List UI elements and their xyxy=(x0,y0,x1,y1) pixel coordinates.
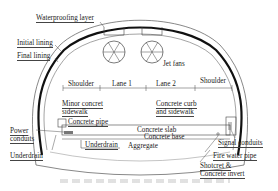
label-curb-2: and sidewalk xyxy=(156,108,194,117)
label-power-2: conduits xyxy=(10,135,34,144)
final-lining xyxy=(38,28,241,156)
label-concrete-base: Concrete base xyxy=(144,133,185,141)
power-conduits xyxy=(64,131,73,134)
label-jet-fans: Jet fans xyxy=(163,60,185,68)
label-underdrain-mid: Underdrain xyxy=(85,141,118,150)
tunnel-diagram xyxy=(0,0,278,191)
label-minor-sidewalk-2: sidewalk xyxy=(62,108,88,117)
label-shoulder-right: Shoulder xyxy=(200,77,226,85)
invert-inner xyxy=(50,152,230,161)
label-shotcrete-2: Concrete invert xyxy=(200,170,245,179)
label-lane-1: Lane 1 xyxy=(112,80,132,88)
label-initial-lining: Initial lining xyxy=(17,39,53,48)
label-lane-2: Lane 2 xyxy=(156,80,176,88)
label-underdrain-left: Underdrain xyxy=(10,152,43,161)
label-signal-conduits: Signal conduits xyxy=(218,139,263,148)
label-shoulder-left: Shoulder xyxy=(68,80,94,88)
label-concrete-pipe: Concrete pipe xyxy=(68,118,108,127)
jet-fan-left xyxy=(103,27,125,63)
label-fire-water-pipe: Fire water pipe xyxy=(213,152,257,161)
label-aggregate: Aggregate xyxy=(128,142,158,150)
label-waterproofing-layer: Waterproofing layer xyxy=(36,14,94,23)
label-final-lining: Final lining xyxy=(17,52,50,61)
jet-fan-right xyxy=(141,27,163,63)
figure-caption-blurred xyxy=(60,179,230,183)
